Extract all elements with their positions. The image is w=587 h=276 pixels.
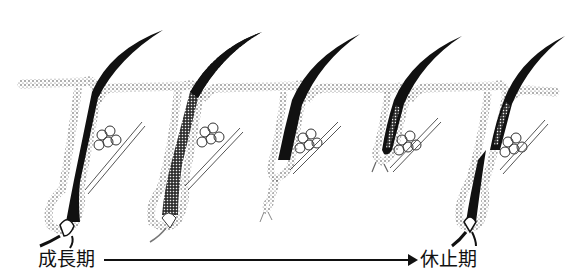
hair-cycle-illustration (0, 0, 587, 276)
label-anagen: 成長期 (38, 248, 95, 270)
gland-1 (94, 126, 121, 150)
gland-2 (197, 123, 224, 147)
follicle-stage-3 (260, 34, 360, 222)
label-telogen: 休止期 (420, 248, 477, 270)
sebaceous-glands (94, 123, 527, 157)
arrow-head-icon (408, 254, 418, 266)
progression-arrow-line (104, 259, 414, 261)
follicle-stage-4 (372, 36, 462, 172)
follicle-stage-1 (40, 30, 163, 248)
follicle-stage-5 (452, 36, 565, 246)
